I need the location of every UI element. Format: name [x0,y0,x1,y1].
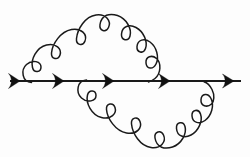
upper-gluon-loop [23,14,160,82]
lower-gluon-loop [78,80,214,148]
diagram-canvas [0,0,250,157]
upper-gluon-coil-path [23,14,160,82]
lower-gluon-coil-path [78,80,214,148]
feynman-diagram-figure: Feynman diagram Fermion propagator line … [0,0,250,157]
